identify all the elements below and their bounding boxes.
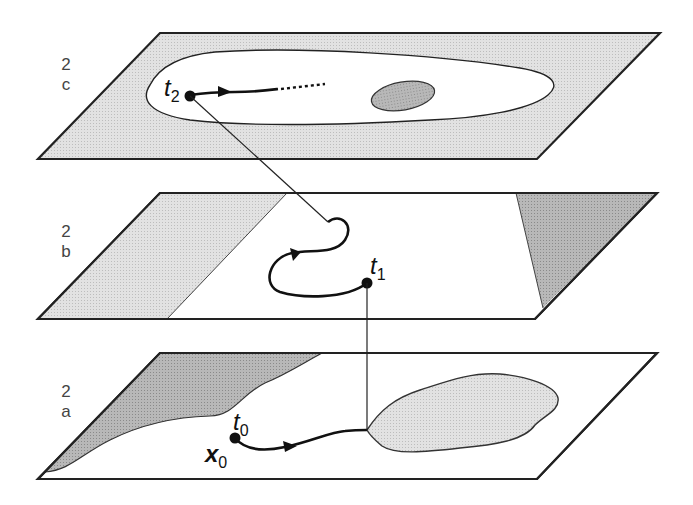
label-t1: t1 <box>370 252 386 284</box>
layer-b-label: 2 b <box>56 222 76 262</box>
layer-c <box>38 33 660 159</box>
label-t0: t0 <box>233 408 249 440</box>
label-x0: x0 <box>205 440 227 472</box>
layer-b <box>38 193 657 319</box>
label-t2: t2 <box>164 74 180 106</box>
layer-a <box>38 353 657 479</box>
layer-c-label: 2 c <box>56 55 76 95</box>
layer-a-label: 2 a <box>56 382 76 422</box>
layered-diagram: 2 c 2 b 2 a t2 t1 t0 x0 <box>0 0 693 505</box>
